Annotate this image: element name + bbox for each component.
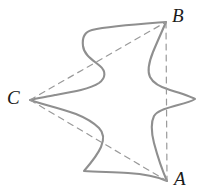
vertex-label-b: B — [172, 6, 184, 25]
curved-star-region-outline — [30, 22, 195, 181]
dashed-chord-c-b — [30, 22, 166, 100]
vertex-label-a: A — [174, 169, 186, 188]
dashed-chord-b-a — [166, 22, 167, 181]
dashed-chord-c-a — [30, 100, 167, 181]
vertex-label-c: C — [7, 88, 20, 107]
geometry-figure: B C A — [0, 0, 212, 194]
figure-canvas — [0, 0, 212, 194]
